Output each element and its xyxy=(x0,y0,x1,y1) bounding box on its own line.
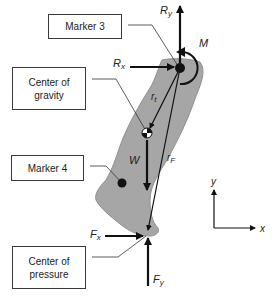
marker3-label-box: Marker 3 xyxy=(48,14,122,39)
label-rt-sub: t xyxy=(154,95,156,104)
marker4-dot xyxy=(118,179,127,188)
label-rx-sub: x xyxy=(121,62,125,71)
label-rx: Rx xyxy=(113,58,125,69)
marker4-label: Marker 4 xyxy=(28,162,67,175)
label-fy-sub: y xyxy=(160,278,164,287)
cop-label-box: Center of pressure xyxy=(12,246,86,289)
label-axis-x: x xyxy=(260,223,265,234)
label-w: W xyxy=(129,155,139,166)
label-rf: rF xyxy=(167,152,175,163)
label-ry: Ry xyxy=(160,5,172,16)
marker4-label-box: Marker 4 xyxy=(11,155,84,181)
label-axis-x-text: x xyxy=(260,223,265,234)
cog-label: Center of gravity xyxy=(28,76,69,102)
label-axis-y-text: y xyxy=(211,176,216,187)
free-body-diagram: Marker 3 Center of gravity Marker 4 Cent… xyxy=(0,0,277,302)
label-fx-base: F xyxy=(90,228,97,240)
label-m: M xyxy=(199,38,208,49)
label-ry-base: R xyxy=(160,4,168,16)
marker3-label: Marker 3 xyxy=(65,20,104,33)
label-rx-base: R xyxy=(113,57,121,69)
label-rf-sub: F xyxy=(170,156,175,165)
label-axis-y: y xyxy=(211,176,216,187)
cog-label-box: Center of gravity xyxy=(12,67,86,110)
label-fy-base: F xyxy=(153,273,160,285)
cop-label: Center of pressure xyxy=(28,255,69,281)
label-m-base: M xyxy=(199,37,208,49)
label-rt: rt xyxy=(151,91,157,102)
label-fx: Fx xyxy=(90,229,101,240)
label-ry-sub: y xyxy=(168,9,172,18)
label-w-base: W xyxy=(129,154,139,166)
cog-symbol xyxy=(142,128,152,138)
label-fy: Fy xyxy=(153,274,164,285)
marker3-dot xyxy=(175,63,185,73)
label-fx-sub: x xyxy=(97,233,101,242)
